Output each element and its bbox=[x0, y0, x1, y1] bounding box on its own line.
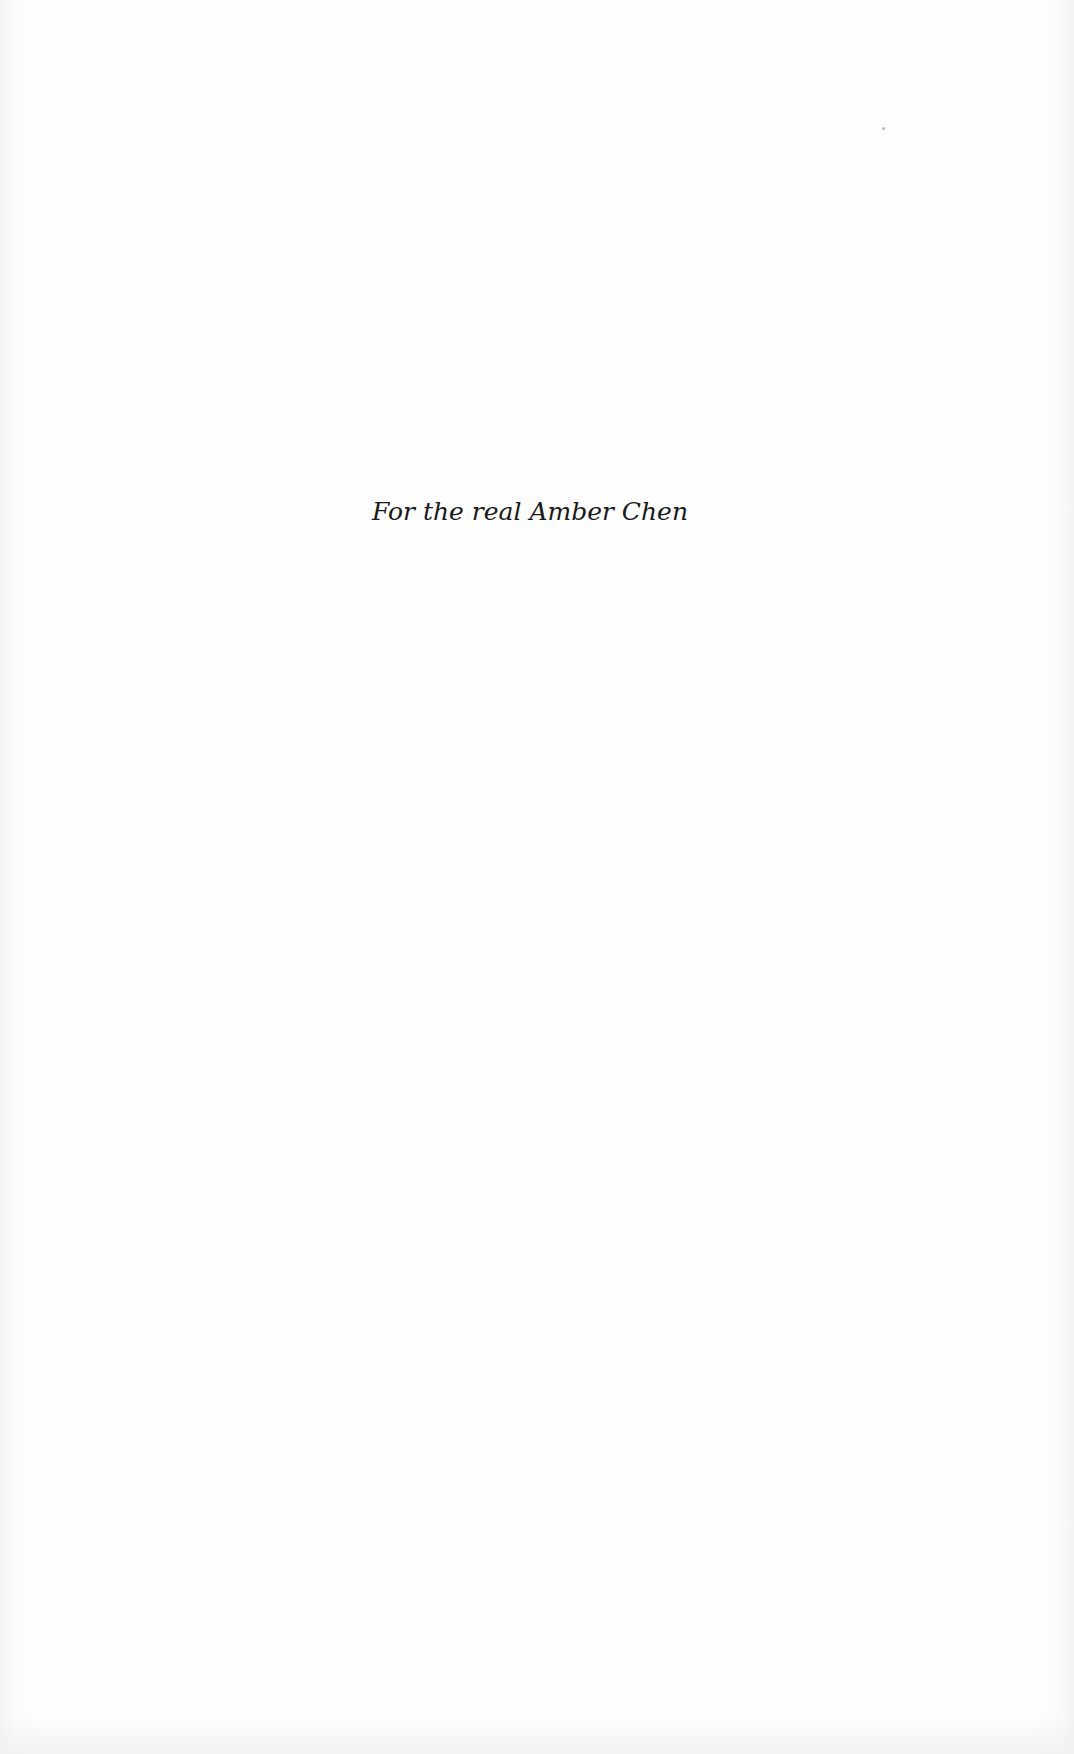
paper-speck bbox=[882, 127, 885, 130]
page-bottom-edge bbox=[0, 1714, 1074, 1754]
dedication-text: For the real Amber Chen bbox=[372, 495, 688, 529]
book-page: For the real Amber Chen bbox=[0, 0, 1074, 1754]
